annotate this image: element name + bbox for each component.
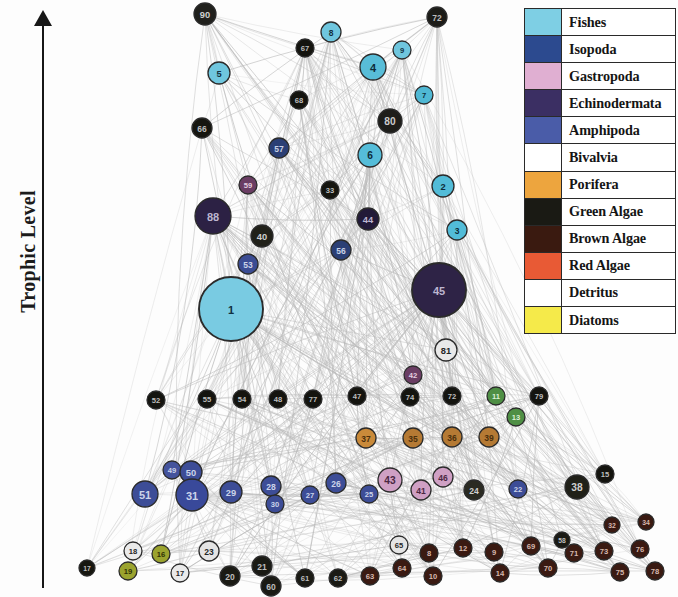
node-circle[interactable] [432,175,454,197]
graph-node[interactable]: 33 [321,181,339,199]
node-circle[interactable] [290,91,308,109]
node-circle[interactable] [464,480,484,500]
graph-node[interactable]: 66 [192,118,212,138]
node-circle[interactable] [361,567,379,585]
graph-node[interactable]: 19 [119,562,137,580]
node-circle[interactable] [646,562,664,580]
graph-node[interactable]: 7 [415,86,433,104]
node-circle[interactable] [487,387,505,405]
graph-node[interactable]: 24 [464,480,484,500]
node-circle[interactable] [393,559,411,577]
graph-node[interactable]: 76 [631,540,649,558]
node-circle[interactable] [163,461,181,479]
graph-node[interactable]: 32 [604,517,620,533]
node-circle[interactable] [378,109,402,133]
graph-node[interactable]: 72 [443,387,461,405]
graph-node[interactable]: 79 [530,387,548,405]
graph-node[interactable]: 44 [357,208,379,230]
node-circle[interactable] [266,495,284,513]
graph-node[interactable]: 35 [403,428,423,448]
graph-node[interactable]: 67 [296,39,314,57]
node-circle[interactable] [176,479,208,511]
graph-node[interactable]: 3 [447,220,467,240]
node-circle[interactable] [321,181,339,199]
graph-node[interactable]: 11 [487,387,505,405]
graph-node[interactable]: 40 [251,225,273,247]
graph-node[interactable]: 61 [296,569,314,587]
node-circle[interactable] [358,143,382,167]
graph-node[interactable]: 31 [176,479,208,511]
graph-node[interactable]: 15 [596,465,614,483]
graph-node[interactable]: 74 [401,388,419,406]
node-circle[interactable] [192,118,212,138]
node-circle[interactable] [454,539,472,557]
graph-node[interactable]: 16 [152,545,170,563]
node-circle[interactable] [198,390,216,408]
node-circle[interactable] [269,138,289,158]
node-circle[interactable] [611,563,629,581]
node-circle[interactable] [411,480,431,500]
node-circle[interactable] [565,544,583,562]
graph-node[interactable]: 75 [611,563,629,581]
node-circle[interactable] [199,541,219,561]
graph-node[interactable]: 64 [393,559,411,577]
graph-node[interactable]: 20 [220,566,240,586]
node-circle[interactable] [424,567,442,585]
graph-node[interactable]: 9 [393,41,411,59]
node-circle[interactable] [119,562,137,580]
node-circle[interactable] [435,339,457,361]
graph-node[interactable]: 59 [239,176,257,194]
node-circle[interactable] [390,536,408,554]
graph-node[interactable]: 2 [432,175,454,197]
node-circle[interactable] [238,254,258,274]
graph-node[interactable]: 18 [124,542,142,560]
graph-node[interactable]: 14 [491,564,509,582]
node-circle[interactable] [447,220,467,240]
graph-node[interactable]: 54 [233,390,251,408]
node-circle[interactable] [443,387,461,405]
node-circle[interactable] [565,475,589,499]
node-circle[interactable] [442,427,462,447]
graph-node[interactable]: 6 [358,143,382,167]
node-circle[interactable] [631,540,649,558]
node-circle[interactable] [79,560,95,576]
node-circle[interactable] [261,476,281,496]
node-circle[interactable] [530,387,548,405]
graph-node[interactable]: 80 [378,109,402,133]
graph-node[interactable]: 51 [132,481,158,507]
graph-node[interactable]: 25 [360,485,378,503]
node-circle[interactable] [403,428,423,448]
graph-node[interactable]: 41 [411,480,431,500]
node-circle[interactable] [427,7,447,27]
node-circle[interactable] [171,564,189,582]
node-circle[interactable] [321,22,341,42]
node-circle[interactable] [415,86,433,104]
node-circle[interactable] [596,465,614,483]
graph-node[interactable]: 28 [261,476,281,496]
graph-node[interactable]: 58 [554,532,570,548]
node-circle[interactable] [147,391,165,409]
node-circle[interactable] [296,569,314,587]
graph-node[interactable]: 10 [424,567,442,585]
node-circle[interactable] [420,544,438,562]
node-circle[interactable] [393,41,411,59]
graph-node[interactable]: 65 [390,536,408,554]
graph-node[interactable]: 48 [269,390,287,408]
node-circle[interactable] [251,225,273,247]
node-circle[interactable] [152,545,170,563]
graph-node[interactable]: 23 [199,541,219,561]
graph-node[interactable]: 56 [331,240,351,260]
graph-node[interactable]: 46 [433,467,453,487]
node-circle[interactable] [326,473,346,493]
graph-node[interactable]: 49 [163,461,181,479]
graph-node[interactable]: 52 [147,391,165,409]
graph-node[interactable]: 53 [238,254,258,274]
graph-node[interactable]: 17 [79,560,95,576]
node-circle[interactable] [208,62,230,84]
graph-node[interactable]: 68 [290,91,308,109]
node-circle[interactable] [348,387,366,405]
node-circle[interactable] [378,468,402,492]
node-circle[interactable] [522,537,540,555]
node-circle[interactable] [233,390,251,408]
node-circle[interactable] [195,198,231,234]
